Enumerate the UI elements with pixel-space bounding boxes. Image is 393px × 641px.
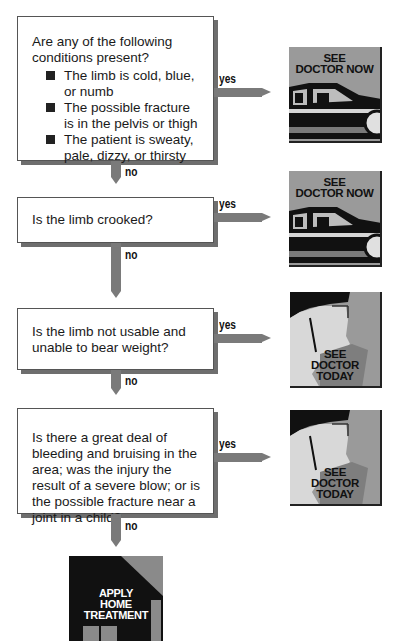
arrow-head-icon (262, 213, 271, 221)
arrow-head-icon (262, 334, 271, 342)
no-arrow-4 (111, 514, 121, 540)
outcome-caption: APPLYHOMETREATMENT (69, 588, 163, 621)
no-label-1: no (125, 165, 137, 179)
arrow-head-icon (262, 88, 271, 96)
question-2-text: Is the limb crooked? (32, 212, 203, 228)
no-label-3: no (125, 374, 137, 388)
bullet-square-icon (46, 135, 55, 144)
yes-label-4: yes (219, 437, 236, 451)
car-icon (289, 47, 382, 143)
outcome-caption: SEEDOCTORTODAY (290, 467, 380, 500)
no-arrow-2 (111, 243, 121, 291)
question-box-3: Is the limb not usable and unable to bea… (17, 308, 214, 370)
yes-label-3: yes (219, 318, 236, 332)
question-box-4: Is there a great deal of bleeding and br… (17, 408, 214, 514)
no-label-4: no (125, 519, 137, 533)
question-1-text: Are any of the following conditions pres… (32, 34, 203, 66)
yes-label-2: yes (219, 197, 236, 211)
see-doctor-now-image-2: SEEDOCTOR NOW (289, 171, 382, 267)
apply-home-treatment-image: APPLYHOMETREATMENT (69, 556, 163, 641)
condition-item: The possible fracture is in the pelvis o… (46, 100, 203, 132)
question-box-1: Are any of the following conditions pres… (17, 16, 214, 161)
yes-arrow-4 (214, 453, 262, 462)
arrow-head-icon (111, 291, 121, 298)
see-doctor-today-image-2: SEEDOCTORTODAY (290, 410, 382, 506)
outcome-caption: SEEDOCTORTODAY (290, 349, 380, 382)
condition-list: The limb is cold, blue, or numb The poss… (32, 68, 203, 164)
question-3-text: Is the limb not usable and unable to bea… (32, 324, 203, 356)
condition-item: The limb is cold, blue, or numb (46, 68, 203, 100)
yes-arrow-3 (214, 334, 262, 343)
car-icon (289, 171, 382, 267)
yes-arrow-2 (214, 213, 262, 222)
condition-item: The patient is sweaty, pale, dizzy, or t… (46, 132, 203, 164)
arrow-head-icon (111, 540, 121, 547)
question-1: Are any of the following conditions pres… (32, 34, 203, 164)
arrow-head-icon (111, 388, 121, 395)
yes-arrow-1 (214, 88, 262, 97)
no-arrow-3 (111, 370, 121, 388)
yes-label-1: yes (219, 72, 236, 86)
bullet-square-icon (46, 103, 55, 112)
question-4-text: Is there a great deal of bleeding and br… (32, 430, 203, 526)
no-arrow-1 (111, 161, 121, 177)
bullet-square-icon (46, 71, 55, 80)
see-doctor-now-image-1: SEEDOCTOR NOW (289, 47, 382, 143)
question-box-2: Is the limb crooked? (17, 197, 214, 243)
see-doctor-today-image-1: SEEDOCTORTODAY (290, 292, 382, 388)
arrow-head-icon (262, 453, 271, 461)
no-label-2: no (125, 248, 137, 262)
arrow-head-icon (111, 177, 121, 184)
